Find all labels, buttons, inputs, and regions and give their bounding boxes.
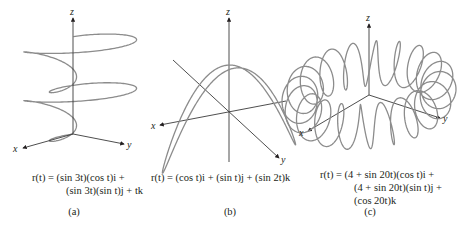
panel-c-label: (c)	[364, 206, 376, 217]
panel-b-caption-line-1: r(t) = (cos t)i + (sin t)j + (sin 2t)k	[151, 171, 290, 184]
panel-a-plot: z x y	[12, 6, 137, 154]
panel-c-plot: z x y	[282, 12, 456, 149]
panel-c-caption-line-2: (4 + sin 20t)(sin t)j +	[320, 181, 442, 194]
panel-c-caption-line-3: (cos 20t)k	[320, 194, 442, 207]
panel-b-caption: r(t) = (cos t)i + (sin t)j + (sin 2t)k	[151, 171, 290, 184]
panel-b-label: (b)	[224, 206, 236, 217]
panel-a-caption-line-1: r(t) = (sin 3t)(cos t)i +	[32, 171, 143, 184]
panel-a-x-axis	[23, 134, 73, 148]
panel-a-label: (a)	[68, 206, 80, 217]
panel-c-z-label: z	[365, 12, 370, 23]
panel-c-caption: r(t) = (4 + sin 20t)(cos t)i + (4 + sin …	[320, 168, 442, 207]
panel-c-x-label: x	[298, 127, 304, 138]
panel-a-caption-line-2: (sin 3t)(sin t)j + tk	[32, 184, 143, 197]
panel-b-plot: z x y	[150, 6, 296, 173]
panel-a-y-axis	[73, 134, 124, 144]
panel-b-x-label: x	[150, 120, 156, 131]
panel-a-x-label: x	[12, 143, 18, 154]
panel-c-caption-line-1: r(t) = (4 + sin 20t)(cos t)i +	[320, 168, 442, 181]
panel-a-caption: r(t) = (sin 3t)(cos t)i + (sin 3t)(sin t…	[32, 171, 143, 197]
panel-a-z-label: z	[69, 6, 74, 17]
panel-a-y-label: y	[126, 139, 132, 150]
panel-c-y-label: y	[442, 113, 448, 124]
panel-b-y-label: y	[280, 154, 286, 165]
panel-a-curve	[24, 34, 137, 141]
panel-b-z-label: z	[225, 6, 230, 17]
panel-b-y-axis	[173, 60, 279, 158]
